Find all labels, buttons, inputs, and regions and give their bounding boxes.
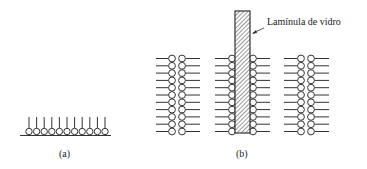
- arrow-head-icon: [252, 30, 257, 34]
- panel-a-monolayer: [20, 117, 111, 136]
- caption-a: (a): [59, 148, 70, 159]
- panel-b-bilayers: [156, 11, 329, 135]
- caption-b: (b): [236, 148, 248, 159]
- slide-label: Lamínula de vidro: [267, 16, 341, 27]
- glass-slide: [235, 11, 250, 133]
